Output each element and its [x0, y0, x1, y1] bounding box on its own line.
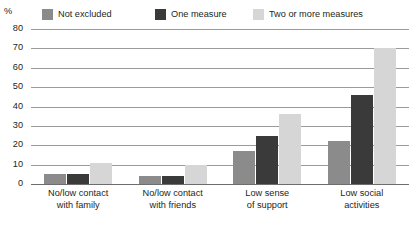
category-label-line: with friends	[126, 200, 221, 212]
legend-label-two-or-more-measures: Two or more measures	[269, 9, 363, 20]
chart-legend: Not excluded One measure Two or more mea…	[0, 5, 413, 25]
category-label-3: Low senseof support	[220, 188, 315, 211]
bar-group-3	[220, 29, 315, 184]
category-label-line: Low sense	[220, 188, 315, 200]
bar	[279, 114, 301, 184]
legend-label-not-excluded: Not excluded	[58, 9, 112, 20]
bar	[328, 141, 350, 184]
legend-item-two-or-more-measures: Two or more measures	[253, 5, 363, 23]
bar	[351, 95, 373, 184]
bar-groups	[31, 29, 409, 184]
y-axis-tick-0: 0	[0, 179, 23, 188]
legend-swatch-two-or-more-measures	[253, 9, 264, 20]
bar-chart: % Not excluded One measure Two or more m…	[0, 0, 413, 227]
bar-group-2	[126, 29, 221, 184]
x-axis-category-labels: No/low contactwith familyNo/low contactw…	[31, 188, 409, 211]
bar	[374, 48, 396, 184]
y-axis-tick-10: 10	[0, 160, 23, 169]
bar-group-1	[31, 29, 126, 184]
y-axis-tick-80: 80	[0, 24, 23, 33]
category-label-1: No/low contactwith family	[31, 188, 126, 211]
legend-item-one-measure: One measure	[155, 5, 227, 23]
legend-label-one-measure: One measure	[171, 9, 227, 20]
category-label-4: Low socialactivities	[315, 188, 410, 211]
y-axis-tick-70: 70	[0, 43, 23, 52]
bar	[233, 151, 255, 184]
category-label-line: No/low contact	[126, 188, 221, 200]
y-axis-tick-30: 30	[0, 121, 23, 130]
legend-swatch-one-measure	[155, 9, 166, 20]
y-axis-tick-60: 60	[0, 63, 23, 72]
category-label-line: activities	[315, 200, 410, 212]
legend-swatch-not-excluded	[42, 9, 53, 20]
category-label-line: with family	[31, 200, 126, 212]
bar	[185, 165, 207, 184]
category-label-line: of support	[220, 200, 315, 212]
bar	[67, 174, 89, 184]
y-axis-tick-20: 20	[0, 140, 23, 149]
category-label-2: No/low contactwith friends	[126, 188, 221, 211]
bar	[90, 163, 112, 184]
y-axis-tick-50: 50	[0, 82, 23, 91]
gridline-0	[31, 184, 409, 185]
legend-item-not-excluded: Not excluded	[42, 5, 112, 23]
category-label-line: No/low contact	[31, 188, 126, 200]
bar	[44, 174, 66, 184]
bar	[256, 136, 278, 184]
bar	[139, 176, 161, 184]
y-axis-tick-40: 40	[0, 102, 23, 111]
bar	[162, 176, 184, 184]
bar-group-4	[315, 29, 410, 184]
category-label-line: Low social	[315, 188, 410, 200]
